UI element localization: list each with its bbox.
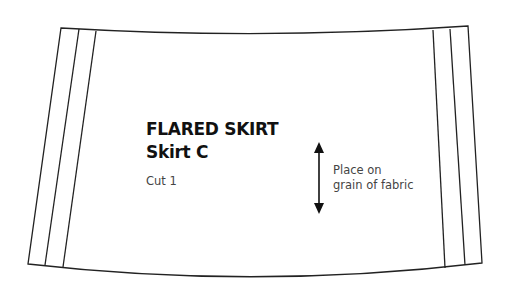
cut-instruction: Cut 1 xyxy=(146,174,177,188)
pattern-subtitle: Skirt C xyxy=(146,142,208,162)
seam-line-right-2 xyxy=(450,29,465,265)
pattern-outline xyxy=(0,0,505,284)
grainline-label: Place on grain of fabric xyxy=(333,163,414,193)
grainline-label-line1: Place on xyxy=(333,163,414,178)
seam-line-left-1 xyxy=(45,29,79,265)
pattern-piece-outline xyxy=(28,26,482,277)
grainline-arrow-icon xyxy=(314,142,324,214)
seam-line-left-2 xyxy=(63,31,96,267)
grainline-label-line2: grain of fabric xyxy=(333,178,414,193)
pattern-title: FLARED SKIRT xyxy=(146,119,278,139)
seam-line-right-1 xyxy=(433,30,445,268)
